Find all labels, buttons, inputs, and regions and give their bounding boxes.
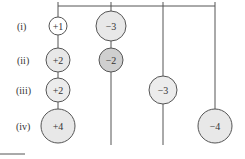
charge-node: −2 [99,48,123,72]
charge-node: −3 [149,76,177,104]
row-label-iv: (iv) [16,121,30,133]
charge-node: +2 [46,48,70,72]
charge-value: −3 [106,21,117,32]
charge-value: +1 [53,21,64,32]
charge-node: −4 [198,109,232,143]
charge-mobile-diagram: (i) (ii) (iii) (iv) +1 +2 +2 +4 −3 −2 −3… [0,0,245,159]
charge-node: −3 [96,11,126,41]
row-label-iii: (iii) [16,85,31,97]
charge-node: +2 [46,78,70,102]
charge-value: +4 [53,121,64,132]
charge-value: −4 [210,121,221,132]
charge-value: +2 [53,55,64,66]
charge-value: −3 [158,85,169,96]
row-label-i: (i) [17,21,26,33]
charge-value: +2 [53,85,64,96]
charge-node: +1 [49,17,67,35]
row-label-ii: (ii) [17,55,29,67]
charge-value: −2 [106,55,117,66]
charge-node: +4 [41,109,75,143]
